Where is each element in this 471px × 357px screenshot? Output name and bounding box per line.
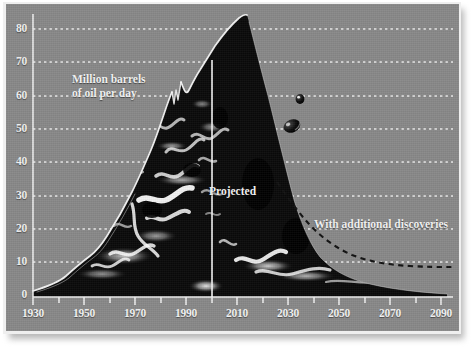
additional-discoveries-annotation: With additional discoveries — [314, 217, 448, 231]
y-tick-label-10: 10 — [6, 256, 27, 268]
y-tick-label-20: 20 — [6, 223, 27, 235]
x-tick-label-2050: 2050 — [317, 308, 361, 320]
y-tick-label-0: 0 — [6, 289, 27, 301]
x-tick-label-2010: 2010 — [215, 308, 259, 320]
x-tick-label-1930: 1930 — [11, 308, 55, 320]
x-tick-label-1970: 1970 — [113, 308, 157, 320]
y-tick-label-30: 30 — [6, 190, 27, 202]
chart-canvas — [6, 4, 459, 331]
oil-droplet-small — [296, 94, 305, 104]
oil-droplet-large — [282, 117, 303, 135]
y-tick-label-60: 60 — [6, 90, 27, 102]
x-tick-label-1990: 1990 — [164, 308, 208, 320]
projected-annotation: Projected — [209, 184, 256, 198]
y-tick-label-70: 70 — [6, 56, 27, 68]
chart-panel: 80 70 60 50 40 30 20 10 0 1930 1950 1970… — [6, 4, 459, 331]
axis-units-line-1: Million barrels — [72, 73, 146, 85]
axis-units-line-2: of oil per day — [72, 87, 137, 99]
x-tick-label-1950: 1950 — [62, 308, 106, 320]
x-tick-label-2090: 2090 — [419, 308, 459, 320]
oil-production-area — [33, 15, 447, 297]
x-tick-label-2030: 2030 — [266, 308, 310, 320]
x-tick-label-2070: 2070 — [368, 308, 412, 320]
x-axis-ticks — [33, 297, 441, 305]
y-tick-label-50: 50 — [6, 123, 27, 135]
y-tick-label-40: 40 — [6, 156, 27, 168]
oil-production-chart-figure: 80 70 60 50 40 30 20 10 0 1930 1950 1970… — [0, 0, 471, 357]
plot-area: 80 70 60 50 40 30 20 10 0 1930 1950 1970… — [6, 4, 459, 331]
y-tick-label-80: 80 — [6, 23, 27, 35]
axis-units-annotation: Million barrelsof oil per day — [72, 72, 146, 100]
